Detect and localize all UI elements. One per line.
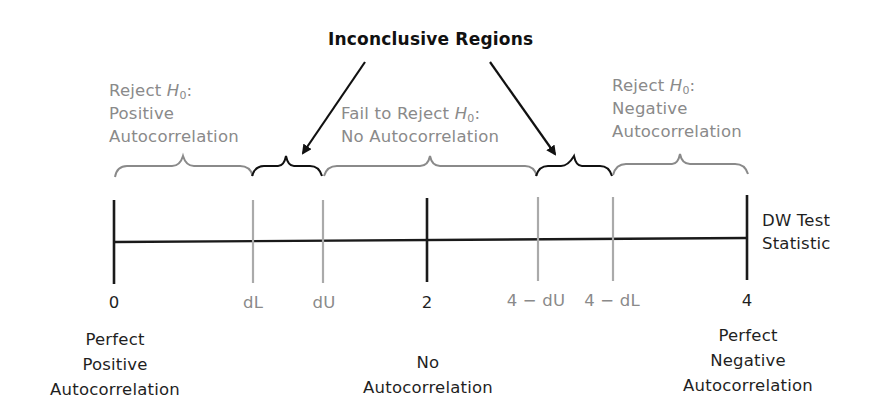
brace-inconclusive-right [536,156,612,176]
text: : [690,76,696,95]
brace-inconclusive-left [252,156,322,176]
text: Autocorrelation [683,373,813,398]
arrow-right-icon [490,62,555,154]
label-perfect-negative: Perfect Negative Autocorrelation [683,323,813,398]
text: Autocorrelation [612,120,742,143]
diagram-title: Inconclusive Regions [328,28,533,51]
text: Negative [612,97,742,120]
brace-none [324,156,537,176]
label-no-autocorrelation: No Autocorrelation [363,350,493,400]
text: No Autocorrelation [341,125,499,148]
text: H [670,76,683,95]
tick-label-2: 2 [422,291,433,314]
text: DW Test [762,209,831,232]
axis-label: DW Test Statistic [762,209,831,255]
tick-label-dU: dU [313,291,336,314]
tick-label-dL: dL [243,291,263,314]
text: Reject [612,76,670,95]
text: H [167,81,180,100]
region-negative-label: Reject H0: Negative Autocorrelation [612,74,742,143]
text: Positive [109,102,239,125]
text: Autocorrelation [363,375,493,400]
text: Perfect [683,323,813,348]
region-positive-label: Reject H0: Positive Autocorrelation [109,79,239,148]
tick-label-4-dL: 4 − dL [584,289,640,312]
text: Reject [109,81,167,100]
brace-negative [613,154,748,175]
text: 0 [467,112,474,125]
tick-label-4-dU: 4 − dU [507,289,566,312]
brace-positive [115,156,253,177]
tick-label-0: 0 [109,291,120,314]
axis-line [114,238,747,242]
text: Autocorrelation [109,125,239,148]
text: : [187,81,193,100]
text: No [363,350,493,375]
text: 0 [179,89,186,102]
label-perfect-positive: Perfect Positive Autocorrelation [50,327,180,402]
text: : [475,104,481,123]
text: H [455,104,468,123]
text: Autocorrelation [50,377,180,402]
tick-label-4: 4 [742,289,753,312]
text: Positive [50,352,180,377]
text: Statistic [762,232,831,255]
region-none-label: Fail to Reject H0: No Autocorrelation [341,102,499,148]
text: Fail to Reject [341,104,455,123]
text: 0 [682,84,689,97]
text: Negative [683,348,813,373]
text: Perfect [50,327,180,352]
